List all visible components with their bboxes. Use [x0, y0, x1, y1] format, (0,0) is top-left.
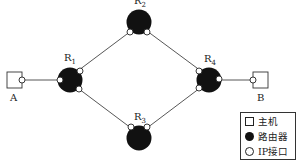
ip-interface-icon [216, 76, 222, 82]
link-R1-R3 [79, 89, 131, 128]
legend-label: 主机 [258, 117, 278, 127]
host-A-label: A [10, 93, 17, 103]
router-disc-icon [245, 132, 254, 141]
router-R2-label: R2 [134, 0, 146, 9]
legend-label: 路由器 [258, 132, 288, 142]
router-R1-label: R1 [64, 53, 76, 66]
ip-interface-icon [57, 77, 63, 83]
link-R1-R2 [79, 31, 131, 70]
ip-interface-icon [76, 86, 82, 92]
ip-interface-circle-icon [245, 147, 254, 156]
legend-item-host: 主机 [245, 117, 278, 127]
link-R2-R4 [147, 31, 201, 71]
legend-item-router: 路由器 [245, 132, 288, 142]
ip-interface-icon [250, 77, 256, 83]
legend-label: IP接口 [258, 147, 288, 157]
legend-item-ip-interface: IP接口 [245, 147, 288, 157]
ip-interface-icon [196, 85, 202, 91]
router-R4-label: R4 [204, 54, 216, 67]
router-R3-label: R3 [134, 112, 146, 125]
ip-interface-icon [19, 77, 25, 83]
ip-interface-icon [127, 29, 133, 35]
ip-interface-icon [144, 29, 150, 35]
ip-interface-icon [196, 68, 202, 74]
ip-interface-icon [77, 68, 83, 74]
host-B-label: B [257, 93, 264, 103]
host-square-icon [245, 117, 254, 126]
legend: 主机 路由器 IP接口 [240, 112, 296, 160]
link-R3-R4 [147, 88, 200, 128]
